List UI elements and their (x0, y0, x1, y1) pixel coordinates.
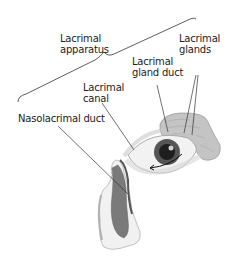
label-nasolacrimal-duct: Nasolacrimal duct (18, 113, 105, 124)
label-lacrimal-canal: Lacrimal canal (83, 82, 124, 104)
label-lacrimal-apparatus: Lacrimal apparatus (60, 33, 109, 55)
label-lacrimal-glands: Lacrimal glands (179, 33, 220, 55)
lacrimal-apparatus-diagram: Lacrimal apparatus Lacrimal glands Lacri… (0, 0, 232, 265)
nasal-cavity-illustration (99, 160, 141, 249)
leader-lacrimal-canal (102, 103, 134, 150)
label-lacrimal-gland-duct: Lacrimal gland duct (132, 56, 183, 78)
